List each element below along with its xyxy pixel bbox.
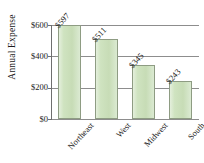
y-tick-label: $200 bbox=[18, 83, 48, 92]
x-axis-category-labels: Northeast West Midwest South bbox=[51, 121, 204, 163]
bar-south bbox=[169, 81, 192, 119]
y-axis-title: Annual Expense bbox=[7, 0, 17, 97]
bar-northeast bbox=[58, 25, 81, 119]
y-axis-line bbox=[51, 25, 52, 120]
bar-west bbox=[95, 39, 118, 119]
y-tick-label: $600 bbox=[18, 21, 48, 30]
y-tick-label: $400 bbox=[18, 52, 48, 61]
y-tick-mark bbox=[48, 56, 52, 57]
y-tick-mark bbox=[48, 119, 52, 120]
y-axis-tick-labels: $600 $400 $200 $0 bbox=[18, 0, 48, 163]
y-tick-mark bbox=[48, 25, 52, 26]
bar-midwest bbox=[132, 65, 155, 119]
y-tick-mark bbox=[48, 88, 52, 89]
y-tick-label: $0 bbox=[18, 115, 48, 124]
plot-area: $597 $511 $345 $243 bbox=[51, 25, 199, 119]
category-label-northeast: Northeast bbox=[48, 121, 96, 163]
bar-chart-figure: Annual Expense $600 $400 $200 $0 $597 $5… bbox=[0, 0, 204, 163]
